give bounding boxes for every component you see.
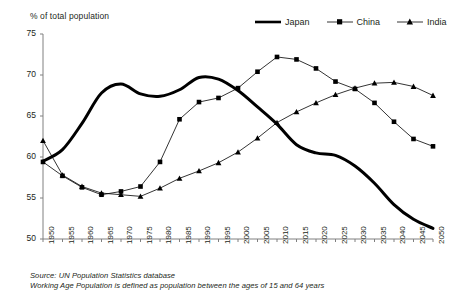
x-tick-label: 2030 xyxy=(359,226,368,244)
x-tick-label: 1960 xyxy=(86,226,95,244)
y-tick-label: 55 xyxy=(16,192,36,202)
x-tick-label: 1965 xyxy=(106,226,115,244)
x-tick-label: 1990 xyxy=(203,226,212,244)
y-tick-label: 60 xyxy=(16,151,36,161)
x-tick-label: 2045 xyxy=(418,226,427,244)
x-tick-label: 1950 xyxy=(47,226,56,244)
x-tick-label: 2015 xyxy=(301,226,310,244)
footnote-definition: Working Age Population is defined as pop… xyxy=(30,281,324,290)
series-china xyxy=(41,55,436,197)
y-tick-label: 65 xyxy=(16,110,36,120)
x-tick-label: 1955 xyxy=(67,226,76,244)
x-tick-label: 1975 xyxy=(145,226,154,244)
chart-container: % of total population Japan China xyxy=(0,0,455,298)
x-tick-label: 1980 xyxy=(164,226,173,244)
x-tick-label: 1995 xyxy=(223,226,232,244)
x-tick-label: 2050 xyxy=(437,226,446,244)
x-tick-label: 1970 xyxy=(125,226,134,244)
y-tick-label: 75 xyxy=(16,28,36,38)
footnote-source: Source: UN Population Statistics databas… xyxy=(30,271,175,280)
y-tick-label: 50 xyxy=(16,233,36,243)
x-tick-label: 2035 xyxy=(379,226,388,244)
x-tick-label: 2025 xyxy=(340,226,349,244)
plot-area xyxy=(0,0,455,298)
x-tick-label: 2000 xyxy=(242,226,251,244)
x-tick-label: 1985 xyxy=(184,226,193,244)
x-tick-label: 2005 xyxy=(262,226,271,244)
x-tick-label: 2010 xyxy=(281,226,290,244)
x-tick-label: 2040 xyxy=(398,226,407,244)
y-tick-label: 70 xyxy=(16,69,36,79)
x-tick-label: 2020 xyxy=(320,226,329,244)
